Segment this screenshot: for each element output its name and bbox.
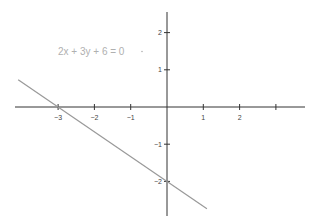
coordinate-plane: −3−2−112 21−1−2 2x + 3y + 6 = 0 (0, 0, 312, 224)
label-dot (141, 51, 143, 53)
y-tick-label: 2 (158, 29, 162, 36)
equation-line (18, 80, 207, 209)
y-tick-label: −1 (154, 141, 162, 148)
x-tick-label: 2 (238, 114, 242, 121)
x-tick-label: 1 (201, 114, 205, 121)
y-tick-label: −2 (154, 178, 162, 185)
x-tick-label: −2 (90, 114, 98, 121)
y-tick-label: 1 (158, 66, 162, 73)
x-tick-label: −3 (54, 114, 62, 121)
x-tick-label: −1 (127, 114, 135, 121)
equation-label: 2x + 3y + 6 = 0 (58, 46, 125, 57)
